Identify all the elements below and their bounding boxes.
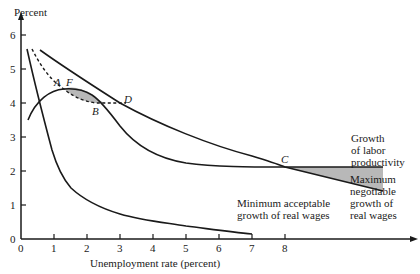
point-label-f: F <box>65 76 73 88</box>
x-tick-label: 4 <box>150 242 156 254</box>
y-tick-label: 0 <box>10 233 16 245</box>
labor-productivity-curve <box>28 89 383 167</box>
svg-text:Minimum acceptable: Minimum acceptable <box>237 197 330 209</box>
svg-text:negotiable: negotiable <box>350 185 396 197</box>
y-tick-label: 6 <box>10 29 16 41</box>
point-label-a: A <box>53 76 61 88</box>
label-labor-productivity: Growth of labor productivity <box>351 132 405 168</box>
x-tick-label: 2 <box>84 242 90 254</box>
svg-text:productivity: productivity <box>351 156 405 168</box>
svg-text:growth of: growth of <box>350 197 393 209</box>
x-tick-label: 8 <box>282 242 288 254</box>
y-tick-label: 3 <box>10 131 16 143</box>
svg-text:Growth: Growth <box>351 132 385 144</box>
x-tick-label: 1 <box>51 242 57 254</box>
y-tick-label: 2 <box>10 165 16 177</box>
x-axis-title: Unemployment rate (percent) <box>90 257 220 270</box>
point-label-b: B <box>92 105 99 117</box>
x-tick-label: 6 <box>216 242 222 254</box>
y-tick-label: 4 <box>10 97 16 109</box>
chart: 0 1 2 3 4 5 6 0 1 2 3 4 5 6 7 8 Percent … <box>0 0 420 274</box>
svg-text:growth of real wages: growth of real wages <box>237 209 330 221</box>
svg-text:Maximum: Maximum <box>350 173 396 185</box>
svg-text:of labor: of labor <box>351 144 386 156</box>
svg-text:real wages: real wages <box>350 209 397 221</box>
label-min-wage-growth: Minimum acceptable growth of real wages <box>237 197 330 221</box>
x-tick-label: 3 <box>117 242 123 254</box>
x-axis-arrow-icon <box>410 236 418 242</box>
x-tick-label: 0 <box>18 242 24 254</box>
label-max-wage-growth: Maximum negotiable growth of real wages <box>350 173 397 221</box>
point-label-c: C <box>281 153 289 165</box>
x-tick-label: 7 <box>249 242 255 254</box>
y-tick-label: 5 <box>10 63 16 75</box>
point-label-d: D <box>123 93 132 105</box>
min-wage-growth-curve <box>27 49 252 234</box>
y-axis-title: Percent <box>14 6 47 18</box>
y-tick-label: 1 <box>10 199 16 211</box>
x-tick-label: 5 <box>183 242 189 254</box>
